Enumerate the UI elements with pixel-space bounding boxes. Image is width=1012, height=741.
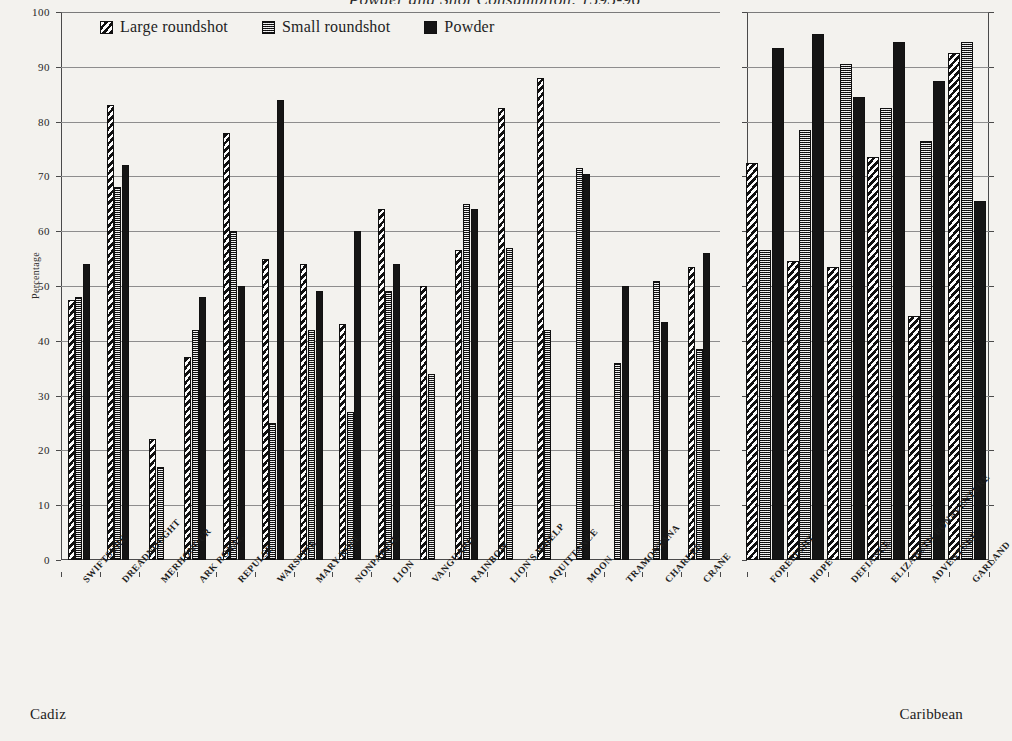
bar-group	[642, 12, 681, 560]
bar-powder	[703, 253, 710, 560]
y-axis-ticks: 0102030405060708090100	[4, 0, 50, 560]
bar-powder	[354, 231, 361, 560]
bar-small	[920, 141, 932, 560]
bar-group	[908, 12, 948, 560]
caption-cadiz: Cadiz	[30, 706, 66, 723]
bar-group	[294, 12, 333, 560]
x-tick-mark	[487, 572, 488, 577]
bar-large	[339, 324, 346, 560]
y-tick-label: 20	[8, 444, 50, 456]
bar-powder	[393, 264, 400, 560]
bar-powder	[199, 297, 206, 560]
bar-powder	[83, 264, 90, 560]
y-tick-mark	[989, 286, 994, 287]
bar-small	[961, 42, 973, 560]
x-tick-mark	[216, 572, 217, 577]
bar-small	[428, 374, 435, 560]
bar-large	[107, 105, 114, 560]
caption-caribbean: Caribbean	[900, 706, 963, 723]
bar-large	[867, 157, 879, 560]
bar-group	[371, 12, 410, 560]
y-tick-label: 100	[8, 6, 50, 18]
bar-group	[747, 12, 787, 560]
bar-large	[537, 78, 544, 560]
x-tick-mark	[604, 572, 605, 577]
bar-group	[449, 12, 488, 560]
x-tick-mark	[787, 572, 788, 577]
y-tick-mark	[989, 505, 994, 506]
y-tick-label: 60	[8, 225, 50, 237]
bar-large	[688, 267, 695, 560]
bar-powder	[974, 201, 986, 560]
x-tick-mark	[255, 572, 256, 577]
bar-powder	[853, 97, 865, 560]
x-tick-mark	[828, 572, 829, 577]
legend-label: Powder	[444, 18, 494, 36]
bar-group	[604, 12, 643, 560]
bar-powder	[122, 165, 129, 560]
bar-small	[230, 231, 237, 560]
x-tick-mark	[642, 572, 643, 577]
panel-cadiz: SWIFTSUREDREADNOUGHTMERHONOURARK ROYALRE…	[61, 12, 720, 560]
bar-large	[908, 316, 920, 560]
bar-small	[114, 187, 121, 560]
bar-small	[759, 250, 771, 560]
bar-group	[487, 12, 526, 560]
legend-label: Small roundshot	[282, 18, 390, 36]
y-tick-label: 80	[8, 116, 50, 128]
x-tick-mark	[720, 572, 721, 577]
bar-group	[828, 12, 868, 560]
bar-powder	[772, 48, 784, 560]
x-tick-mark	[332, 572, 333, 577]
y-tick-label: 0	[8, 554, 50, 566]
y-tick-label: 70	[8, 170, 50, 182]
y-tick-label: 50	[8, 280, 50, 292]
x-tick-mark	[868, 572, 869, 577]
y-tick-mark	[989, 12, 994, 13]
bar-small	[799, 130, 811, 560]
bar-large	[948, 53, 960, 560]
chart-legend: Large roundshotSmall roundshotPowder	[100, 18, 494, 36]
bar-small	[544, 330, 551, 560]
bar-large	[184, 357, 191, 560]
y-tick-mark	[989, 341, 994, 342]
bar-group	[787, 12, 827, 560]
bar-powder	[622, 286, 629, 560]
x-tick-mark	[989, 572, 990, 577]
bar-group	[177, 12, 216, 560]
bar-powder	[277, 100, 284, 560]
bar-large	[746, 163, 758, 560]
x-tick-mark	[371, 572, 372, 577]
bar-small	[653, 281, 660, 560]
bar-large	[300, 264, 307, 560]
diagonal-stripe-swatch	[100, 21, 113, 34]
y-tick-label: 10	[8, 499, 50, 511]
bar-large	[455, 250, 462, 560]
x-tick-mark	[449, 572, 450, 577]
x-tick-mark	[949, 572, 950, 577]
bar-large	[223, 133, 230, 560]
x-tick-label: LION	[391, 558, 416, 584]
bar-group	[332, 12, 371, 560]
bar-group	[410, 12, 449, 560]
solid-black-swatch	[424, 21, 437, 34]
bar-small	[840, 64, 852, 560]
bar-small	[696, 349, 703, 560]
x-tick-mark	[410, 572, 411, 577]
bar-small	[385, 291, 392, 560]
x-tick-label: HOPE	[808, 556, 835, 584]
bar-large	[378, 209, 385, 560]
bar-group	[868, 12, 908, 560]
bar-powder	[812, 34, 824, 560]
bar-large	[498, 108, 505, 560]
bar-small	[308, 330, 315, 560]
bar-group	[565, 12, 604, 560]
x-tick-mark	[747, 572, 748, 577]
y-tick-mark	[989, 396, 994, 397]
checker-swatch	[262, 21, 275, 34]
panel-caribbean: FORESIGHTHOPEDEFIANCEELIZABETH BONAVENTU…	[747, 12, 989, 560]
bar-group	[139, 12, 178, 560]
y-tick-label: 30	[8, 390, 50, 402]
legend-item-large: Large roundshot	[100, 18, 228, 36]
bar-powder	[661, 322, 668, 560]
